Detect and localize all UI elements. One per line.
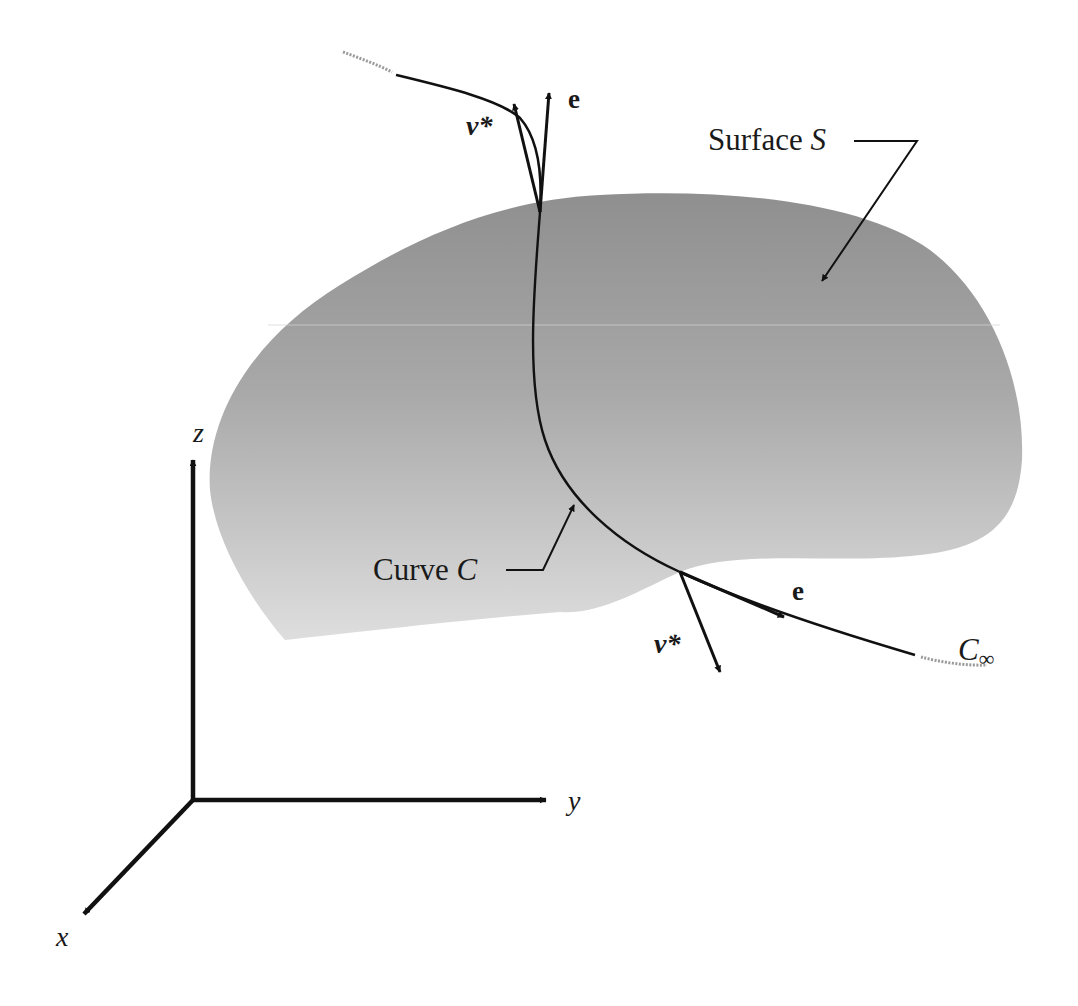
nu-star-vector-top: [514, 104, 540, 212]
c-infinity-label: C∞: [958, 632, 994, 671]
z-axis-label: z: [192, 417, 204, 448]
curve-c-label: Curve C: [373, 552, 478, 587]
nu-star-label-top: ν*: [466, 110, 493, 141]
surface-s: [210, 193, 1023, 640]
e-vector-top: [540, 93, 549, 212]
y-axis-label: y: [565, 785, 581, 816]
curve-c-tail-top: [343, 52, 392, 72]
nu-star-label-bottom: ν*: [654, 628, 681, 659]
e-label-bottom: e: [792, 576, 804, 606]
curve-c-top: [396, 75, 541, 212]
x-axis: [84, 800, 193, 914]
e-label-top: e: [568, 84, 580, 114]
x-axis-label: x: [55, 921, 69, 952]
surface-curve-diagram: Surface S Curve C C∞ e ν* e ν* z y x: [0, 0, 1078, 1006]
surface-s-label: Surface S: [708, 122, 826, 157]
